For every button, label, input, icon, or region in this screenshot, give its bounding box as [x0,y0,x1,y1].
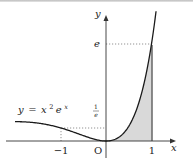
svg-text:1: 1 [94,103,98,110]
x-axis-label: x [171,142,177,153]
y-axis-label: y [94,8,101,19]
tick-label-minus-one: −1 [54,145,69,156]
tick-label-e: e [94,38,100,49]
origin-label: O [94,145,102,156]
y-axis-arrow-icon [104,15,109,21]
tick-label-one-over-e: 1 e [93,103,99,118]
tick-label-one: 1 [149,145,155,156]
function-graph: y x e 1 e −1 O 1 y = x 2 e x [0,0,193,168]
function-label: y = x 2 e x [17,100,68,115]
svg-text:e: e [94,111,98,118]
